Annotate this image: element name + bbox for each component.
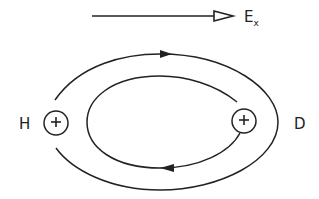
inner-trajectory [87, 76, 240, 168]
nucleus-d-label: D [294, 115, 306, 133]
diagram-canvas: Ex H D [0, 0, 319, 199]
nucleus-h [44, 111, 68, 135]
nucleus-h-label: H [19, 115, 30, 133]
arrowhead-open-icon [214, 11, 233, 21]
outer-arrow-icon [160, 50, 172, 58]
nucleus-d [232, 109, 256, 133]
field-arrow [92, 11, 233, 21]
field-label: Ex [244, 8, 259, 28]
inner-arrow-icon [160, 164, 174, 172]
